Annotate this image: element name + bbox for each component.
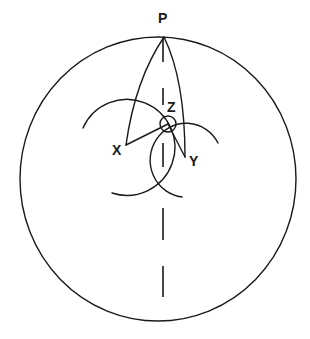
diagram-canvas: P X Y Z: [0, 0, 310, 339]
label-X: X: [112, 142, 122, 158]
geometry-diagram: P X Y Z: [0, 0, 310, 339]
outer-circle: [20, 37, 296, 321]
label-P: P: [158, 10, 167, 26]
segment-X-Z: [126, 124, 168, 145]
arc-centered-X: [83, 99, 175, 195]
label-Z: Z: [167, 99, 176, 115]
label-Y: Y: [189, 153, 199, 169]
